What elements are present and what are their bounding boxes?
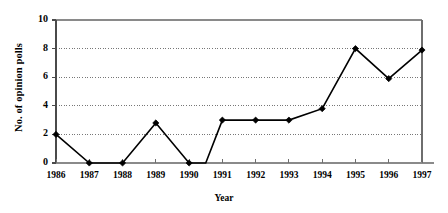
x-tick-label-1997: 1997	[402, 170, 442, 180]
line-chart-plot	[0, 0, 448, 213]
y-tick-label-0: 0	[28, 156, 48, 167]
y-tick-label-10: 10	[28, 13, 48, 24]
chart-container: No. of opinion polls Year 0246810 198619…	[0, 0, 448, 213]
y-tick-label-8: 8	[28, 42, 48, 53]
data-point-marker-1993	[286, 117, 292, 123]
data-point-marker-1994	[319, 106, 325, 112]
y-tick-marks-group	[52, 20, 56, 163]
x-axis-label: Year	[0, 193, 448, 203]
y-tick-label-6: 6	[28, 70, 48, 81]
data-point-marker-1992	[253, 117, 259, 123]
y-tick-label-2: 2	[28, 127, 48, 138]
data-point-marker-1991	[219, 117, 225, 123]
y-tick-label-4: 4	[28, 99, 48, 110]
plot-frame	[56, 20, 434, 163]
gridlines-group	[56, 49, 422, 135]
